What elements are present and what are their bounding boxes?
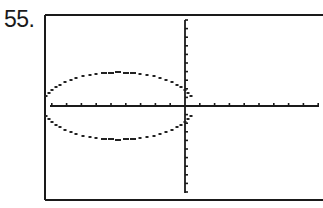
screen-frame [45,15,323,200]
calculator-graph-screen [0,0,323,208]
